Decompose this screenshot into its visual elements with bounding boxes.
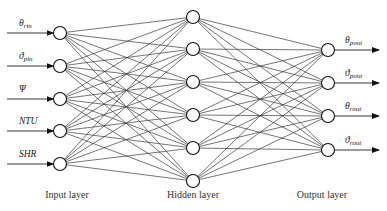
input-layer-label: Input layer (45, 189, 89, 200)
hidden-neuron (187, 11, 200, 24)
edge (193, 49, 328, 50)
output-variable-label: θpout (345, 35, 362, 47)
edge (60, 17, 193, 164)
edge (60, 33, 193, 49)
edge (60, 49, 193, 66)
output-variable-label: ϑrout (345, 135, 361, 147)
hidden-neuron (187, 175, 200, 188)
edge (193, 17, 328, 50)
neural-network-diagram (0, 0, 387, 211)
edge (193, 17, 328, 150)
hidden-neuron (187, 142, 200, 155)
edge (193, 17, 328, 116)
input-neuron (54, 60, 67, 73)
output-variable-label: θrout (345, 101, 361, 113)
input-variable-label: ϑpin (19, 51, 33, 63)
output-neuron (322, 44, 335, 57)
input-variable-label: θrin (19, 18, 32, 30)
edge (60, 17, 193, 131)
edge (193, 50, 328, 82)
input-neuron (54, 158, 67, 171)
output-neuron (322, 144, 335, 157)
edge (60, 99, 193, 181)
input-neuron (54, 125, 67, 138)
output-variable-label: ϑpout (345, 68, 362, 80)
hidden-neuron (187, 109, 200, 122)
input-neuron (54, 27, 67, 40)
connection-edges (60, 17, 328, 181)
edge (193, 49, 328, 150)
output-neuron (322, 77, 335, 90)
hidden-neuron (187, 43, 200, 56)
output-layer-label: Output layer (297, 189, 347, 200)
input-variable-label: NTU (19, 116, 37, 126)
edge (193, 115, 328, 150)
edge (60, 17, 193, 99)
edge (60, 99, 193, 115)
input-variable-label: SHR (19, 149, 36, 159)
edge (60, 164, 193, 181)
input-variable-label: Ψ (19, 84, 26, 94)
edge (60, 82, 193, 164)
edge (60, 148, 193, 164)
output-neuron (322, 110, 335, 123)
input-neuron (54, 93, 67, 106)
edge (193, 83, 328, 181)
edge (60, 17, 193, 33)
edge (60, 17, 193, 66)
edge (193, 150, 328, 181)
edge (193, 50, 328, 148)
hidden-layer-label: Hidden layer (167, 189, 219, 200)
edge (60, 115, 193, 164)
hidden-neuron (187, 76, 200, 89)
